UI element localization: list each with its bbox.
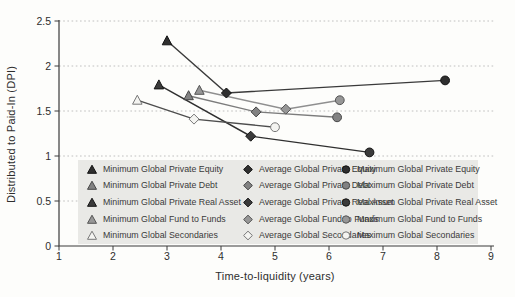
x-tick-label-7: 7 xyxy=(380,250,386,262)
legend-label: Maximum Global Private Debt xyxy=(357,181,474,190)
legend-item: Maximum Global Private Equity xyxy=(340,161,497,178)
diamond-icon xyxy=(242,180,254,191)
legend-label: Maximum Global Private Real Asset xyxy=(357,198,497,207)
legend-column-minimum: Minimum Global Private EquityMinimum Glo… xyxy=(86,161,241,244)
circle-marker-series-0 xyxy=(441,76,450,85)
diamond-icon xyxy=(242,164,254,175)
y-tick-label-1: 1 xyxy=(45,150,51,162)
legend-item: Minimum Global Private Debt xyxy=(86,178,241,195)
triangle-icon xyxy=(86,230,98,241)
x-tick-label-5: 5 xyxy=(272,250,278,262)
diamond-icon xyxy=(242,197,254,208)
legend-item: Maximum Global Secondaries xyxy=(340,227,497,244)
x-tick-label-6: 6 xyxy=(326,250,332,262)
series-line-3 xyxy=(199,90,339,109)
x-tick-label-4: 4 xyxy=(218,250,224,262)
legend-label: Maximum Global Fund to Funds xyxy=(357,215,482,224)
diamond-icon xyxy=(242,214,254,225)
chart-page: { "figure": { "background": "#fdfdfb", "… xyxy=(0,0,515,297)
triangle-marker-series-4 xyxy=(133,95,143,104)
legend-label: Maximum Global Secondaries xyxy=(357,231,474,240)
circle-marker-series-1 xyxy=(333,113,342,122)
triangle-marker-series-2 xyxy=(154,80,164,89)
triangle-marker-series-3 xyxy=(195,85,205,94)
legend-label: Minimum Global Private Equity xyxy=(103,165,223,174)
legend-item: Minimum Global Private Real Asset xyxy=(86,194,241,211)
x-tick-label-8: 8 xyxy=(434,250,440,262)
triangle-icon xyxy=(86,164,98,175)
diamond-marker-series-2 xyxy=(246,131,256,141)
triangle-icon xyxy=(86,197,98,208)
triangle-marker-series-0 xyxy=(162,36,172,45)
x-tick-label-2: 2 xyxy=(110,250,116,262)
circle-icon xyxy=(340,180,352,191)
diamond-marker-series-3 xyxy=(281,104,291,114)
circle-icon xyxy=(340,230,352,241)
series-line-0 xyxy=(167,41,445,93)
legend-item: Minimum Global Private Equity xyxy=(86,161,241,178)
triangle-icon xyxy=(86,180,98,191)
circle-icon xyxy=(340,164,352,175)
y-axis-title: Distributed to Paid-In (DPI) xyxy=(3,53,19,215)
legend-item: Maximum Global Private Real Asset xyxy=(340,194,497,211)
x-axis-title: Time-to-liquidity (years) xyxy=(140,270,410,282)
x-tick-label-9: 9 xyxy=(488,250,494,262)
legend-item: Maximum Global Fund to Funds xyxy=(340,211,497,228)
diamond-marker-series-4 xyxy=(189,114,199,124)
circle-marker-series-4 xyxy=(271,123,280,132)
legend-item: Minimum Global Fund to Funds xyxy=(86,211,241,228)
dpi-vs-liquidity-chart: 12345678900.511.522.5 Minimum Global Pri… xyxy=(0,0,515,297)
plot-area: 12345678900.511.522.5 xyxy=(0,0,515,297)
y-tick-label-0.5: 0.5 xyxy=(36,195,51,207)
y-tick-label-0: 0 xyxy=(45,240,51,252)
circle-marker-series-3 xyxy=(335,96,344,105)
circle-icon xyxy=(340,214,352,225)
legend-column-maximum: Maximum Global Private EquityMaximum Glo… xyxy=(340,161,497,244)
triangle-marker-series-1 xyxy=(184,91,194,100)
legend-label: Minimum Global Secondaries xyxy=(103,231,218,240)
legend-label: Minimum Global Private Debt xyxy=(103,181,217,190)
legend-item: Minimum Global Secondaries xyxy=(86,227,241,244)
y-tick-label-2: 2 xyxy=(45,60,51,72)
circle-icon xyxy=(340,197,352,208)
legend-item: Maximum Global Private Debt xyxy=(340,178,497,195)
triangle-icon xyxy=(86,214,98,225)
x-tick-label-3: 3 xyxy=(164,250,170,262)
x-tick-label-1: 1 xyxy=(56,250,62,262)
diamond-marker-series-1 xyxy=(251,107,261,117)
legend-label: Maximum Global Private Equity xyxy=(357,165,480,174)
legend-label: Minimum Global Fund to Funds xyxy=(103,215,226,224)
diamond-icon xyxy=(242,230,254,241)
legend-label: Minimum Global Private Real Asset xyxy=(103,198,241,207)
y-tick-label-1.5: 1.5 xyxy=(36,105,51,117)
y-tick-label-2.5: 2.5 xyxy=(36,15,51,27)
chart-legend: Minimum Global Private EquityMinimum Glo… xyxy=(78,160,478,244)
circle-marker-series-2 xyxy=(365,148,374,157)
